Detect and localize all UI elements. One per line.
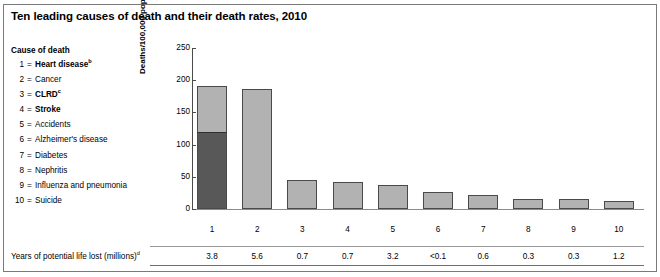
x-axis-tick-label: 4 xyxy=(333,225,363,234)
legend-item: 10=Suicide xyxy=(11,196,146,211)
footer-value-cell: 0.3 xyxy=(556,252,592,261)
bar xyxy=(468,195,498,209)
legend-heading: Cause of death xyxy=(11,46,146,55)
x-axis-tick-label: 8 xyxy=(513,225,543,234)
legend-item-equals: = xyxy=(24,75,35,84)
footer-row-label-text: Years of potential life lost (millions) xyxy=(11,252,137,261)
bar-segment-light xyxy=(513,199,543,209)
y-axis-tickmark xyxy=(192,145,196,146)
legend-item-label: Nephritis xyxy=(35,166,67,175)
x-axis-tick-label: 7 xyxy=(468,225,498,234)
bar-segment-light xyxy=(242,89,272,209)
y-axis-tickmark xyxy=(192,177,196,178)
legend-item-equals: = xyxy=(24,196,35,205)
bar-segment-light xyxy=(423,192,453,209)
bar-segment-dark xyxy=(197,132,227,209)
legend-item: 3=CLRDc xyxy=(11,90,146,105)
legend-item: 8=Nephritis xyxy=(11,166,146,181)
bar xyxy=(559,199,589,209)
legend-item-number: 9 xyxy=(11,181,24,190)
x-axis-tick-label: 1 xyxy=(197,225,227,234)
footer-rule-bottom xyxy=(150,265,644,266)
bar xyxy=(604,201,634,209)
legend-item-number: 8 xyxy=(11,166,24,175)
bar-segment-light xyxy=(468,195,498,209)
footer-value-row: 3.85.60.70.73.2<0.10.60.30.31.2 xyxy=(192,252,644,266)
y-axis-label-text: Deaths/100,000 population xyxy=(138,0,147,74)
cause-of-death-legend: Cause of death 1=Heart diseaseb2=Cancer3… xyxy=(11,46,146,211)
footer-value-cell: <0.1 xyxy=(420,252,456,261)
footer-value-cell: 0.6 xyxy=(465,252,501,261)
legend-item-number: 6 xyxy=(11,135,24,144)
legend-item-label: Influenza and pneumonia xyxy=(35,181,127,190)
legend-item-number: 2 xyxy=(11,75,24,84)
y-axis-tick-label: 50 xyxy=(166,172,190,181)
legend-item: 6=Alzheimer's disease xyxy=(11,135,146,150)
y-axis-ticks: 050100150200250 xyxy=(162,46,190,221)
legend-item-number: 7 xyxy=(11,151,24,160)
legend-item: 2=Cancer xyxy=(11,75,146,90)
x-axis-tick-label: 6 xyxy=(423,225,453,234)
x-axis-tick-label: 5 xyxy=(378,225,408,234)
footer-value-cell: 0.7 xyxy=(330,252,366,261)
legend-item-number: 1 xyxy=(11,60,24,69)
legend-item-superscript: c xyxy=(58,88,61,94)
footer-value-cell: 0.3 xyxy=(510,252,546,261)
legend-item-label: Accidents xyxy=(35,120,71,129)
legend-item-equals: = xyxy=(24,90,35,99)
axes: 050100150200250 xyxy=(148,46,648,221)
legend-item-equals: = xyxy=(24,181,35,190)
legend-item-number: 4 xyxy=(11,105,24,114)
chart-page: Ten leading causes of death and their de… xyxy=(0,0,660,277)
legend-item-list: 1=Heart diseaseb2=Cancer3=CLRDc4=Stroke5… xyxy=(11,60,146,212)
bar-segment-light xyxy=(378,185,408,209)
legend-item-number: 5 xyxy=(11,120,24,129)
bar xyxy=(287,180,317,209)
legend-item: 7=Diabetes xyxy=(11,151,146,166)
legend-item-equals: = xyxy=(24,135,35,144)
bar xyxy=(513,199,543,209)
y-axis-tick-label: 250 xyxy=(166,43,190,52)
bar xyxy=(333,182,363,209)
y-axis-tick-label: 200 xyxy=(166,75,190,84)
x-axis-line xyxy=(192,209,644,210)
footer-value-cell: 3.2 xyxy=(375,252,411,261)
legend-item-label: Suicide xyxy=(35,196,62,205)
legend-item-equals: = xyxy=(24,60,35,69)
legend-item-equals: = xyxy=(24,120,35,129)
legend-item-label: CLRDc xyxy=(35,90,61,99)
y-axis-tick-label: 150 xyxy=(166,107,190,116)
bar xyxy=(197,86,227,209)
bar-segment-light xyxy=(604,201,634,209)
y-axis-tickmark xyxy=(192,80,196,81)
legend-item: 1=Heart diseaseb xyxy=(11,60,146,75)
x-axis-tick-label: 9 xyxy=(559,225,589,234)
footer-value-cell: 5.6 xyxy=(239,252,275,261)
x-axis-tick-label: 2 xyxy=(242,225,272,234)
y-axis-tickmark xyxy=(192,48,196,49)
legend-item-label: Alzheimer's disease xyxy=(35,135,108,144)
legend-item-label: Heart diseaseb xyxy=(35,60,92,69)
legend-item: 5=Accidents xyxy=(11,120,146,135)
legend-item-label: Cancer xyxy=(35,75,61,84)
footer-value-cell: 3.8 xyxy=(194,252,230,261)
bar-segment-light xyxy=(559,199,589,209)
y-axis-tick-label: 100 xyxy=(166,140,190,149)
bar-series xyxy=(192,46,644,209)
legend-item-equals: = xyxy=(24,166,35,175)
legend-item: 4=Stroke xyxy=(11,105,146,120)
bar xyxy=(423,192,453,209)
bar-segment-light xyxy=(287,180,317,209)
y-axis-tick-label: 0 xyxy=(166,204,190,213)
footer-rule-top xyxy=(150,246,644,247)
bar xyxy=(242,89,272,209)
bar-segment-light xyxy=(197,86,227,133)
legend-item-number: 3 xyxy=(11,90,24,99)
x-axis-tick-labels: 12345678910 xyxy=(192,225,644,239)
legend-item: 9=Influenza and pneumonia xyxy=(11,181,146,196)
bar-segment-light xyxy=(333,182,363,209)
legend-item-label: Stroke xyxy=(35,105,60,114)
page-title: Ten leading causes of death and their de… xyxy=(11,10,307,22)
footer-row-label: Years of potential life lost (millions)d xyxy=(11,252,140,261)
y-axis-tickmark xyxy=(192,112,196,113)
